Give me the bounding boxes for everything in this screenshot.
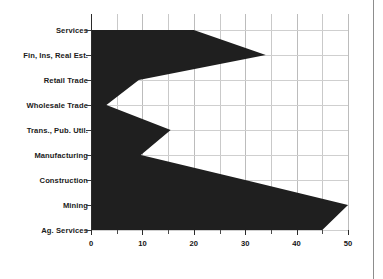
category-label: Wholesale Trade	[2, 101, 88, 110]
x-axis-tick-major	[245, 230, 246, 235]
x-axis-tick-label: 10	[138, 239, 146, 248]
x-axis-tick-minor	[271, 230, 272, 234]
category-label: Retail Trade	[2, 76, 88, 85]
x-axis-tick-minor	[220, 230, 221, 234]
horizontal-area-chart: ServicesFin, Ins, Real Est.Retail TradeW…	[0, 0, 373, 279]
y-axis-tick	[86, 180, 91, 181]
category-label: Mining	[2, 201, 88, 210]
y-axis-tick	[86, 205, 91, 206]
x-axis-tick-label: 40	[292, 239, 300, 248]
y-axis-tick	[86, 130, 91, 131]
y-axis-tick	[86, 80, 91, 81]
x-axis-tick-major	[194, 230, 195, 235]
x-axis-tick-label: 50	[344, 239, 352, 248]
category-axis-labels: ServicesFin, Ins, Real Est.Retail TradeW…	[0, 0, 88, 279]
category-label: Fin, Ins, Real Est.	[2, 51, 88, 60]
category-label: Services	[2, 26, 88, 35]
x-axis-tick-major	[297, 230, 298, 235]
category-label: Construction	[2, 176, 88, 185]
x-axis-tick-label: 0	[89, 239, 93, 248]
x-axis-tick-major	[91, 230, 92, 235]
page-edge-rule	[373, 0, 374, 279]
y-axis-tick	[86, 30, 91, 31]
y-axis-tick	[86, 105, 91, 106]
category-label: Manufacturing	[2, 151, 88, 160]
series-area-polygon	[91, 14, 348, 230]
x-axis-tick-major	[142, 230, 143, 235]
page-canvas: ServicesFin, Ins, Real Est.Retail TradeW…	[0, 0, 383, 279]
y-axis-tick	[86, 155, 91, 156]
gridline-vertical-major	[348, 14, 349, 230]
category-label: Trans., Pub. Util.	[2, 126, 88, 135]
y-axis-tick	[86, 55, 91, 56]
x-axis-tick-label: 20	[190, 239, 198, 248]
x-axis-tick-minor	[322, 230, 323, 234]
x-axis-tick-label: 30	[241, 239, 249, 248]
x-axis-tick-major	[348, 230, 349, 235]
x-axis-tick-minor	[168, 230, 169, 234]
category-label: Ag. Services	[2, 226, 88, 235]
y-axis-line	[91, 14, 92, 230]
x-axis-tick-minor	[117, 230, 118, 234]
